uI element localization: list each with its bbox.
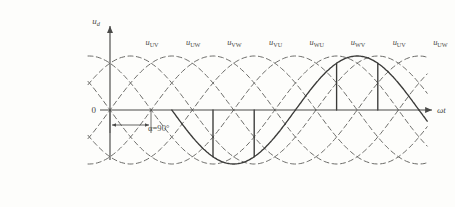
output-pulse xyxy=(337,56,378,110)
wave-label: uVU xyxy=(269,38,283,48)
alpha-label: α=90° xyxy=(148,123,170,133)
output-pulse xyxy=(378,63,419,110)
output-pulse xyxy=(295,63,336,110)
wave-label: uVW xyxy=(227,38,242,48)
y-axis-label: ud xyxy=(92,16,101,27)
origin-label: 0 xyxy=(92,105,97,115)
wave-label: uUV xyxy=(145,38,159,48)
wave-label: uWU xyxy=(310,38,325,48)
wave-label-group: uUVuUWuVWuVUuWUuWVuUVuUW xyxy=(145,38,447,48)
output-pulse xyxy=(254,110,295,157)
output-pulse xyxy=(419,110,427,121)
waveform-figure: ud ωt 0 α=90° uUVuUWuVWuVUuWUuWVuUVuUW xyxy=(0,0,455,207)
wave-label: uUV xyxy=(393,38,407,48)
wave-label: uUW xyxy=(433,38,448,48)
wave-label: uUW xyxy=(186,38,201,48)
x-axis-label: ωt xyxy=(437,105,446,115)
output-pulse xyxy=(213,110,254,164)
output-pulse xyxy=(172,110,213,157)
wave-label: uWV xyxy=(351,38,366,48)
